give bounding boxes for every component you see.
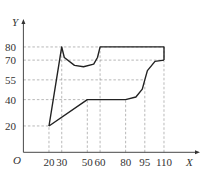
y-tick-label: 80 [5, 41, 17, 53]
x-tick-label: 20 [43, 156, 55, 168]
x-tick-label: 95 [139, 156, 151, 168]
x-tick-label: 80 [120, 156, 132, 168]
x-tick-label: 110 [156, 156, 173, 168]
y-axis-label: Y [12, 16, 20, 28]
y-tick-label: 40 [5, 94, 17, 106]
chart-svg: 2030506080951102040557080OXY [0, 0, 205, 183]
y-axis-arrow-icon [21, 19, 25, 24]
x-axis-label: X [185, 156, 194, 168]
series-line-1 [49, 60, 164, 126]
series-lines [49, 47, 164, 126]
axes [21, 19, 200, 154]
x-tick-label: 50 [82, 156, 94, 168]
origin-label: O [13, 154, 21, 166]
y-tick-label: 70 [5, 54, 17, 66]
x-axis-arrow-icon [195, 150, 200, 154]
chart: 2030506080951102040557080OXY [0, 0, 205, 183]
x-tick-label: 60 [95, 156, 107, 168]
tick-labels: 2030506080951102040557080OXY [5, 16, 194, 168]
y-tick-label: 20 [5, 120, 17, 132]
x-tick-label: 30 [56, 156, 68, 168]
y-tick-label: 55 [5, 74, 17, 86]
